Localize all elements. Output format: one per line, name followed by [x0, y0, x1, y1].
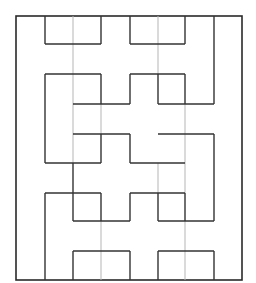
maze-frame	[16, 16, 242, 280]
maze-dark-walls	[45, 16, 214, 280]
maze-light-walls	[73, 16, 185, 280]
maze-diagram	[0, 0, 256, 283]
